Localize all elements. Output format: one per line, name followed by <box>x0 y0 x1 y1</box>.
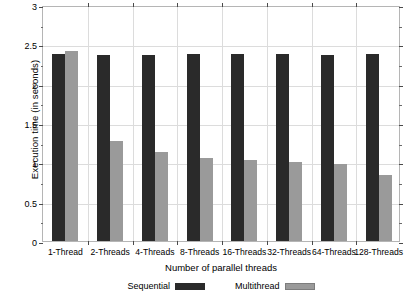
legend-label: Sequential <box>127 281 170 291</box>
bar-group <box>222 7 267 241</box>
x-tick-mark <box>133 241 134 245</box>
x-tick-label: 4-Threads <box>135 247 174 257</box>
x-tick-mark <box>312 241 313 245</box>
plot-area: 00.511.522.531-Thread2-Threads4-Threads8… <box>42 6 400 242</box>
bar-group <box>88 7 133 241</box>
x-tick-label: 128-Threads <box>354 247 403 257</box>
bar-sequential[interactable] <box>366 54 379 241</box>
x-tick-mark <box>356 241 357 245</box>
bar-sequential[interactable] <box>52 54 65 241</box>
legend-label: Multithread <box>235 281 280 291</box>
legend-swatch <box>175 283 205 290</box>
bar-multithread[interactable] <box>244 160 257 241</box>
x-tick-label: 32-Threads <box>267 247 311 257</box>
bar-group <box>267 7 312 241</box>
bar-sequential[interactable] <box>231 54 244 241</box>
legend-swatch <box>285 283 315 290</box>
y-tick-label: 1 <box>32 159 37 169</box>
bar-multithread[interactable] <box>65 51 78 241</box>
x-tick-label: 64-Threads <box>312 247 356 257</box>
bar-sequential[interactable] <box>276 54 289 241</box>
bar-multithread[interactable] <box>379 175 392 241</box>
x-tick-label: 8-Threads <box>180 247 219 257</box>
x-tick-mark <box>177 241 178 245</box>
bar-multithread[interactable] <box>334 164 347 241</box>
bar-multithread[interactable] <box>289 162 302 241</box>
bar-group <box>43 7 88 241</box>
x-tick-mark <box>267 241 268 245</box>
bar-sequential[interactable] <box>321 55 334 241</box>
legend-item-sequential[interactable]: Sequential <box>127 281 205 291</box>
x-tick-label: 16-Threads <box>222 247 266 257</box>
x-tick-mark <box>222 241 223 245</box>
x-tick-mark <box>88 241 89 245</box>
bar-group <box>177 7 222 241</box>
x-axis-title: Number of parallel threads <box>42 262 400 273</box>
y-tick-label: 0.5 <box>24 199 37 209</box>
y-tick-label: 0 <box>32 238 37 248</box>
y-tick-mark <box>39 243 43 244</box>
bar-chart-figure: Execution time (in seconds) 00.511.522.5… <box>0 0 410 301</box>
bar-sequential[interactable] <box>187 54 200 241</box>
x-tick-label: 2-Threads <box>91 247 130 257</box>
bar-sequential[interactable] <box>142 55 155 241</box>
chart-legend: SequentialMultithread <box>42 281 400 291</box>
x-tick-label: 1-Thread <box>48 247 83 257</box>
y-tick-mark <box>399 243 403 244</box>
bar-group <box>133 7 178 241</box>
bar-multithread[interactable] <box>155 152 168 241</box>
y-tick-label: 3 <box>32 2 37 12</box>
bar-multithread[interactable] <box>110 141 123 241</box>
y-tick-label: 1.5 <box>24 120 37 130</box>
y-tick-label: 2.5 <box>24 41 37 51</box>
bar-group <box>312 7 357 241</box>
bar-group <box>356 7 401 241</box>
bar-sequential[interactable] <box>97 55 110 241</box>
bar-multithread[interactable] <box>200 158 213 241</box>
y-tick-label: 2 <box>32 81 37 91</box>
legend-item-multithread[interactable]: Multithread <box>235 281 315 291</box>
